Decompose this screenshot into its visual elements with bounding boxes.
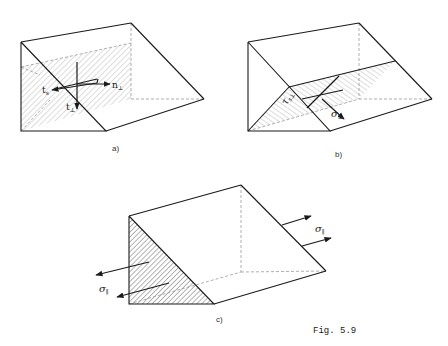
figure-caption: Fig. 5.9 [313, 326, 356, 336]
sigma-par-right-arrow-2 [302, 238, 331, 246]
label-sigma-par-left: σ∥ [99, 283, 109, 295]
panel-b-label: b) [335, 150, 342, 159]
panel-c: σ∥ σ∥ c) [96, 185, 331, 324]
figure-canvas: ts n⊥ t⊥ a) τs⊥ σ⊥ [0, 0, 448, 346]
panel-c-label: c) [216, 315, 223, 324]
label-sigma-perp: σ⊥ [331, 108, 343, 120]
panel-b: τs⊥ σ⊥ b) [248, 23, 432, 159]
panel-a: ts n⊥ t⊥ a) [21, 23, 204, 153]
sigma-par-right-arrow-1 [282, 216, 311, 225]
label-sigma-par-right: σ∥ [315, 223, 325, 235]
hatched-plane-b [248, 61, 395, 131]
panel-a-label: a) [112, 144, 119, 153]
